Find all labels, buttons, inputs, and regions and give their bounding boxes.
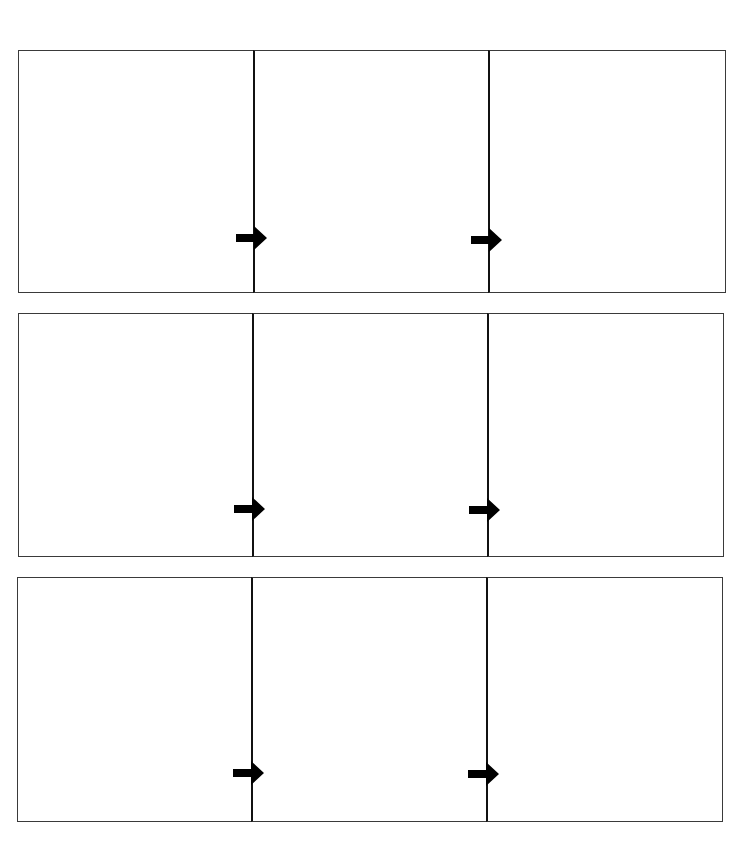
- arrow-right-icon: [471, 228, 503, 252]
- arrow-right-icon: [234, 497, 266, 521]
- panel-1-1: [18, 50, 253, 293]
- storyboard-row-3: [17, 577, 723, 822]
- panel-2-1: [18, 313, 252, 557]
- storyboard-row-2: [18, 313, 724, 557]
- arrow-right-icon: [233, 761, 265, 785]
- storyboard-row-1: [18, 50, 726, 293]
- panel-2-2: [252, 313, 487, 557]
- arrow-right-icon: [469, 498, 501, 522]
- panel-1-2: [253, 50, 488, 293]
- panel-2-3: [487, 313, 724, 557]
- panel-1-3: [488, 50, 726, 293]
- panel-3-2: [251, 577, 486, 822]
- panel-3-3: [486, 577, 723, 822]
- panel-3-1: [17, 577, 251, 822]
- arrow-right-icon: [236, 226, 268, 250]
- arrow-right-icon: [468, 762, 500, 786]
